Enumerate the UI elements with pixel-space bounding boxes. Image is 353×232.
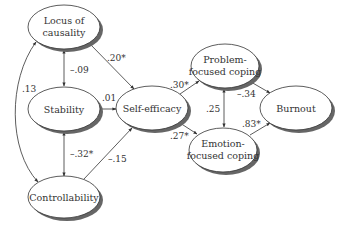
edge-locus-selfefficacy xyxy=(90,44,134,89)
node-label-line: focused coping xyxy=(187,150,260,161)
edge-label-locus-selfefficacy: .20* xyxy=(107,53,126,63)
node-burnout: Burnout xyxy=(260,86,335,133)
node-label-line: Problem- xyxy=(203,54,247,65)
edge-label-problem-emotion: .25 xyxy=(206,104,221,114)
edge-label-locus-stability: –.09 xyxy=(70,65,89,75)
node-locus: Locus of causality xyxy=(28,5,103,52)
edge-label-locus-controllability: .13 xyxy=(22,84,37,94)
node-label-line: causality xyxy=(43,27,87,38)
node-label-line: Locus of xyxy=(44,15,86,26)
path-diagram: .13 –.09 –.32* .20* .01 –.15 .30* .27* .… xyxy=(0,0,353,232)
edge-label-selfefficacy-problem: .30* xyxy=(170,80,189,90)
node-label-line: Burnout xyxy=(276,103,316,114)
edge-label-selfefficacy-emotion: .27* xyxy=(170,131,189,141)
edge-label-problem-burnout: –.34 xyxy=(237,89,256,99)
node-selfefficacy: Self-efficacy xyxy=(116,86,191,133)
node-label-line: Controllability xyxy=(29,192,99,203)
node-label-line: focused coping xyxy=(189,66,262,77)
node-stability: Stability xyxy=(28,87,103,134)
node-problem: Problem- focused coping xyxy=(189,44,262,91)
node-emotion: Emotion- focused coping xyxy=(187,128,260,175)
node-label-line: Stability xyxy=(44,104,85,115)
node-controllability: Controllability xyxy=(28,176,103,221)
node-label-line: Self-efficacy xyxy=(123,103,182,114)
edge-label-controllability-selfefficacy: –.15 xyxy=(108,154,127,164)
edge-label-emotion-burnout: .83* xyxy=(242,119,261,129)
edge-label-stability-controllability: –.32* xyxy=(70,149,94,159)
node-label-line: Emotion- xyxy=(201,138,245,149)
edge-label-stability-selfefficacy: .01 xyxy=(102,93,116,103)
